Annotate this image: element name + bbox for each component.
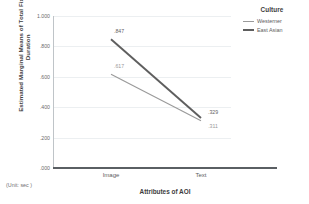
legend-title: Culture — [238, 6, 306, 13]
x-category-label-text: Text — [195, 172, 206, 178]
series-line-east-asian — [111, 39, 201, 118]
legend-label-westerner: Westerner — [257, 18, 282, 24]
y-tick-label: .400 — [40, 104, 50, 110]
y-axis-line — [53, 16, 54, 169]
legend-item-east-asian: East Asian — [238, 27, 306, 33]
line-chart: Estimated Marginal Means of Total Fixati… — [0, 0, 309, 204]
x-axis-title: Attributes of AOI — [53, 188, 277, 195]
plot-area: 1.000 .800 .600 .400 .200 .000 .847 .617… — [53, 16, 231, 168]
y-tick-label: .200 — [40, 135, 50, 141]
legend-swatch-westerner — [243, 21, 254, 22]
series-lines — [53, 16, 231, 168]
series-line-westerner — [111, 74, 201, 121]
y-tick-label: .000 — [40, 165, 50, 171]
x-axis-line — [53, 167, 277, 169]
x-category-label-image: Image — [103, 172, 120, 178]
point-label-east-asian-image: .847 — [114, 28, 124, 34]
y-axis-title: Estimated Marginal Means of Total Fixati… — [17, 0, 32, 120]
point-label-westerner-text: .311 — [208, 123, 218, 129]
legend-label-east-asian: East Asian — [257, 27, 282, 33]
legend-swatch-east-asian — [243, 29, 254, 31]
point-label-east-asian-text: .329 — [208, 109, 218, 115]
legend: Culture Westerner East Asian — [238, 6, 306, 35]
y-tick-label: 1.000 — [37, 13, 50, 19]
unit-note: (Unit: sec ) — [6, 182, 32, 188]
y-tick-label: .800 — [40, 43, 50, 49]
legend-item-westerner: Westerner — [238, 18, 306, 24]
point-label-westerner-image: .617 — [114, 63, 124, 69]
y-tick-label: .600 — [40, 74, 50, 80]
